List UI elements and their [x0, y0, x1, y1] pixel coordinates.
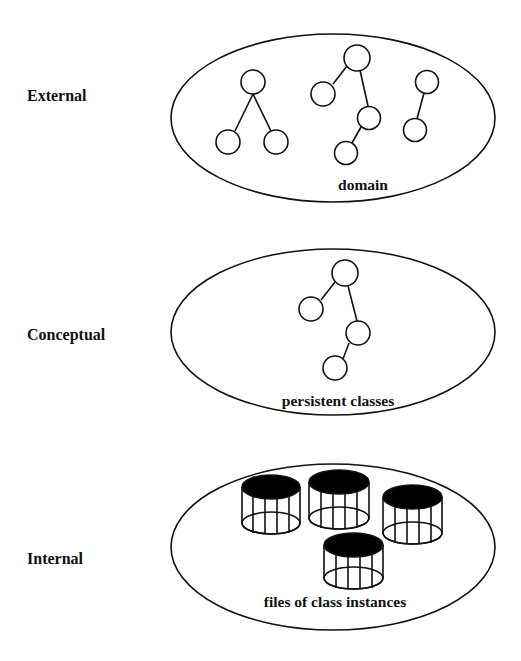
files-caption: files of class instances [264, 593, 407, 610]
persistent-class-tree [299, 260, 370, 380]
database-cylinder-icon [324, 533, 383, 589]
tree-node [323, 356, 347, 380]
external-ellipse [171, 34, 495, 202]
tree-node [358, 107, 381, 130]
level-label-external: External [27, 87, 87, 104]
database-cylinder-icon [383, 485, 442, 544]
conceptual-level: Conceptual persistent classes [27, 249, 495, 415]
tree-node [216, 130, 240, 154]
domain-tree-1 [216, 70, 288, 154]
tree-node [264, 130, 288, 154]
domain-tree-2 [311, 45, 381, 165]
domain-tree-3 [404, 71, 439, 142]
tree-node [332, 260, 358, 286]
level-label-conceptual: Conceptual [27, 326, 106, 344]
tree-node [346, 321, 370, 345]
three-level-architecture-diagram: External domain Conceptual [0, 0, 521, 661]
database-cylinder-icon [309, 470, 369, 529]
internal-level: Internal [27, 464, 495, 630]
tree-node [241, 70, 265, 94]
tree-node [335, 142, 358, 165]
tree-node [311, 82, 335, 106]
tree-node [416, 71, 439, 94]
tree-node [404, 119, 427, 142]
level-label-internal: Internal [27, 550, 84, 567]
tree-node [344, 45, 370, 71]
external-level: External domain [27, 34, 495, 202]
tree-node [299, 297, 323, 321]
database-cylinder-icon [242, 475, 300, 534]
domain-caption: domain [338, 176, 388, 193]
persistent-classes-caption: persistent classes [282, 392, 394, 409]
